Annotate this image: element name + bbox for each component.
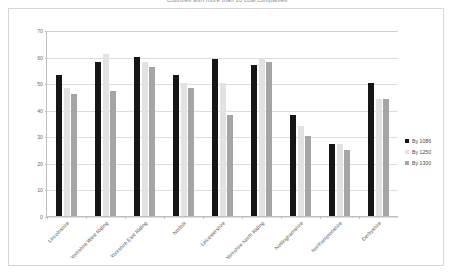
- bar-group: [164, 31, 203, 216]
- bar: [259, 59, 265, 216]
- x-axis-label-cell: Derbyshire: [359, 217, 398, 273]
- y-tick-label: 70: [37, 28, 43, 34]
- y-tick-label: 40: [37, 108, 43, 114]
- x-axis-label-cell: Norfolk: [163, 217, 202, 273]
- bar: [110, 91, 116, 216]
- bar-group: [203, 31, 242, 216]
- legend-swatch-icon: [405, 161, 409, 165]
- y-tick-label: 10: [37, 187, 43, 193]
- legend-item[interactable]: By 1300: [405, 157, 453, 168]
- y-tick-label: 0: [40, 214, 43, 220]
- legend-swatch-icon: [405, 139, 409, 143]
- legend-item[interactable]: By 1250: [405, 146, 453, 157]
- bar-group: [242, 31, 281, 216]
- bar: [142, 62, 148, 216]
- bar: [56, 75, 62, 216]
- bar: [149, 67, 155, 216]
- bar: [227, 115, 233, 216]
- x-axis-labels: LincolnshireYorkshire West RidingYorkshi…: [46, 217, 398, 273]
- chart-legend: By 1086By 1250By 1300: [405, 135, 453, 168]
- x-axis-label-cell: Yorkshire East Riding: [124, 217, 163, 273]
- bar-chart: Counties with more than 10 coal companie…: [0, 0, 454, 274]
- bar: [181, 83, 187, 216]
- chart-title: Counties with more than 10 coal companie…: [0, 0, 454, 5]
- chart-plot-frame: 010203040506070 LincolnshireYorkshire We…: [8, 8, 444, 266]
- bar: [251, 65, 257, 216]
- x-axis-label-text: Norfolk: [171, 220, 187, 236]
- bar: [344, 150, 350, 216]
- bar: [266, 62, 272, 216]
- legend-item-label: By 1250: [412, 149, 431, 155]
- bar-group: [320, 31, 359, 216]
- bar: [337, 144, 343, 216]
- bar-group: [359, 31, 398, 216]
- bar-group: [47, 31, 86, 216]
- y-tick-label: 20: [37, 161, 43, 167]
- bar: [376, 99, 382, 216]
- bar: [103, 54, 109, 216]
- bar: [298, 126, 304, 216]
- bar-group: [86, 31, 125, 216]
- plot-area: 010203040506070: [46, 31, 398, 217]
- bar: [188, 88, 194, 216]
- bar: [64, 88, 70, 216]
- bar: [220, 83, 226, 216]
- x-axis-label-text: Derbyshire: [361, 220, 383, 242]
- bar: [71, 94, 77, 216]
- bar: [305, 136, 311, 216]
- legend-item-label: By 1086: [412, 138, 431, 144]
- x-axis-label-text: Lincolnshire: [46, 220, 70, 244]
- bar: [95, 62, 101, 216]
- y-tick-label: 30: [37, 134, 43, 140]
- x-axis-label-cell: Northamptonshire: [320, 217, 359, 273]
- y-tick-label: 50: [37, 81, 43, 87]
- bar: [212, 59, 218, 216]
- bar: [383, 99, 389, 216]
- legend-item-label: By 1300: [412, 160, 431, 166]
- legend-swatch-icon: [405, 150, 409, 154]
- bar: [329, 144, 335, 216]
- x-axis-label-text: Leicestershire: [199, 220, 226, 247]
- bar: [290, 115, 296, 216]
- bar-groups: [47, 31, 398, 216]
- y-tick-label: 60: [37, 55, 43, 61]
- legend-item[interactable]: By 1086: [405, 135, 453, 146]
